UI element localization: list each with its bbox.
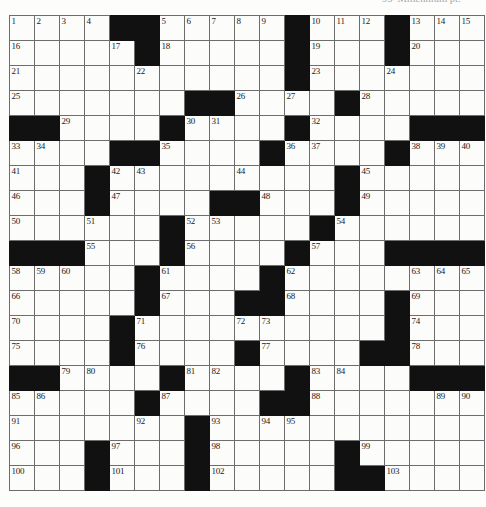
crossword-cell[interactable]: 45 [360, 166, 385, 191]
crossword-cell[interactable] [335, 141, 360, 166]
crossword-cell[interactable]: 2 [35, 16, 60, 41]
crossword-cell[interactable]: 16 [10, 41, 35, 66]
crossword-cell[interactable] [260, 241, 285, 266]
crossword-cell[interactable] [160, 466, 185, 491]
crossword-cell[interactable] [235, 41, 260, 66]
crossword-cell[interactable] [335, 266, 360, 291]
crossword-cell[interactable] [185, 191, 210, 216]
crossword-cell[interactable]: 73 [260, 316, 285, 341]
crossword-cell[interactable] [460, 441, 485, 466]
crossword-cell[interactable] [335, 66, 360, 91]
crossword-cell[interactable] [460, 466, 485, 491]
crossword-cell[interactable]: 98 [210, 441, 235, 466]
crossword-cell[interactable]: 36 [285, 141, 310, 166]
crossword-cell[interactable]: 77 [260, 341, 285, 366]
crossword-cell[interactable]: 64 [435, 266, 460, 291]
crossword-cell[interactable]: 31 [210, 116, 235, 141]
crossword-cell[interactable]: 48 [260, 191, 285, 216]
crossword-cell[interactable] [310, 341, 335, 366]
crossword-cell[interactable] [110, 291, 135, 316]
crossword-cell[interactable] [185, 391, 210, 416]
crossword-cell[interactable] [210, 141, 235, 166]
crossword-cell[interactable]: 92 [135, 416, 160, 441]
crossword-cell[interactable]: 66 [10, 291, 35, 316]
crossword-cell[interactable] [385, 216, 410, 241]
crossword-cell[interactable] [260, 216, 285, 241]
crossword-cell[interactable]: 29 [60, 116, 85, 141]
crossword-cell[interactable] [60, 141, 85, 166]
crossword-cell[interactable] [285, 216, 310, 241]
crossword-cell[interactable] [135, 191, 160, 216]
crossword-cell[interactable] [160, 316, 185, 341]
crossword-cell[interactable]: 23 [310, 66, 335, 91]
crossword-cell[interactable] [410, 91, 435, 116]
crossword-cell[interactable]: 60 [60, 266, 85, 291]
crossword-cell[interactable] [235, 116, 260, 141]
crossword-cell[interactable] [110, 116, 135, 141]
crossword-cell[interactable]: 7 [210, 16, 235, 41]
crossword-cell[interactable] [235, 241, 260, 266]
crossword-cell[interactable] [310, 266, 335, 291]
crossword-cell[interactable]: 18 [160, 41, 185, 66]
crossword-cell[interactable] [360, 216, 385, 241]
crossword-cell[interactable]: 5 [160, 16, 185, 41]
crossword-cell[interactable] [160, 341, 185, 366]
crossword-cell[interactable]: 35 [160, 141, 185, 166]
crossword-cell[interactable] [35, 441, 60, 466]
crossword-cell[interactable] [35, 191, 60, 216]
crossword-grid[interactable]: 1234567891011121314151617181920212223242… [9, 15, 485, 491]
crossword-cell[interactable]: 21 [10, 66, 35, 91]
crossword-cell[interactable]: 99 [360, 441, 385, 466]
crossword-cell[interactable]: 100 [10, 466, 35, 491]
crossword-cell[interactable]: 76 [135, 341, 160, 366]
crossword-cell[interactable]: 83 [310, 366, 335, 391]
crossword-cell[interactable] [460, 291, 485, 316]
crossword-cell[interactable]: 67 [160, 291, 185, 316]
crossword-cell[interactable] [185, 66, 210, 91]
crossword-cell[interactable] [35, 416, 60, 441]
crossword-cell[interactable] [60, 416, 85, 441]
crossword-cell[interactable] [385, 391, 410, 416]
crossword-cell[interactable] [410, 391, 435, 416]
crossword-cell[interactable] [360, 241, 385, 266]
crossword-cell[interactable] [160, 66, 185, 91]
crossword-cell[interactable] [185, 291, 210, 316]
crossword-cell[interactable] [85, 141, 110, 166]
crossword-cell[interactable] [210, 316, 235, 341]
crossword-cell[interactable]: 44 [235, 166, 260, 191]
crossword-cell[interactable] [185, 341, 210, 366]
crossword-cell[interactable]: 86 [35, 391, 60, 416]
crossword-cell[interactable]: 22 [135, 66, 160, 91]
crossword-cell[interactable]: 65 [460, 266, 485, 291]
crossword-cell[interactable] [360, 41, 385, 66]
crossword-cell[interactable]: 93 [210, 416, 235, 441]
crossword-cell[interactable] [135, 441, 160, 466]
crossword-cell[interactable] [85, 266, 110, 291]
crossword-cell[interactable]: 55 [85, 241, 110, 266]
crossword-cell[interactable] [235, 66, 260, 91]
crossword-cell[interactable]: 41 [10, 166, 35, 191]
crossword-cell[interactable] [210, 166, 235, 191]
crossword-cell[interactable] [435, 191, 460, 216]
crossword-cell[interactable] [285, 341, 310, 366]
crossword-cell[interactable]: 103 [385, 466, 410, 491]
crossword-cell[interactable] [435, 41, 460, 66]
crossword-cell[interactable] [460, 191, 485, 216]
crossword-cell[interactable] [410, 416, 435, 441]
crossword-cell[interactable]: 102 [210, 466, 235, 491]
crossword-cell[interactable]: 63 [410, 266, 435, 291]
crossword-cell[interactable] [235, 216, 260, 241]
crossword-cell[interactable] [360, 66, 385, 91]
crossword-cell[interactable]: 4 [85, 16, 110, 41]
crossword-cell[interactable] [385, 116, 410, 141]
crossword-cell[interactable]: 95 [285, 416, 310, 441]
crossword-cell[interactable] [160, 166, 185, 191]
crossword-cell[interactable]: 62 [285, 266, 310, 291]
crossword-cell[interactable] [85, 116, 110, 141]
crossword-cell[interactable] [260, 41, 285, 66]
crossword-cell[interactable]: 78 [410, 341, 435, 366]
crossword-cell[interactable] [35, 216, 60, 241]
crossword-cell[interactable] [60, 166, 85, 191]
crossword-cell[interactable] [60, 316, 85, 341]
crossword-cell[interactable] [60, 216, 85, 241]
